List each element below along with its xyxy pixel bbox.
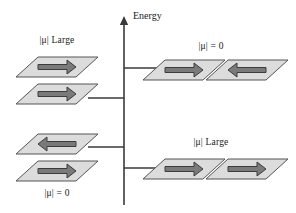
label-bottom-right: |μ| Large [193,137,228,147]
label-top-right: |μ| = 0 [198,41,223,51]
label-bottom-left: |μ| = 0 [44,188,69,198]
energy-axis-label: Energy [133,10,162,21]
plate-bottom-left-lower [16,161,98,181]
plate-top-left-lower [16,84,98,104]
plate-bottom-left-upper [16,134,98,154]
plate-top-left-upper [16,57,98,77]
energy-level-moment-diagram: |μ| Large|μ| = 0|μ| Large|μ| = 0Energy [0,0,296,213]
energy-axis-arrowhead-icon [120,16,128,25]
label-top-left: |μ| Large [39,35,74,45]
diagram-canvas [0,0,296,213]
